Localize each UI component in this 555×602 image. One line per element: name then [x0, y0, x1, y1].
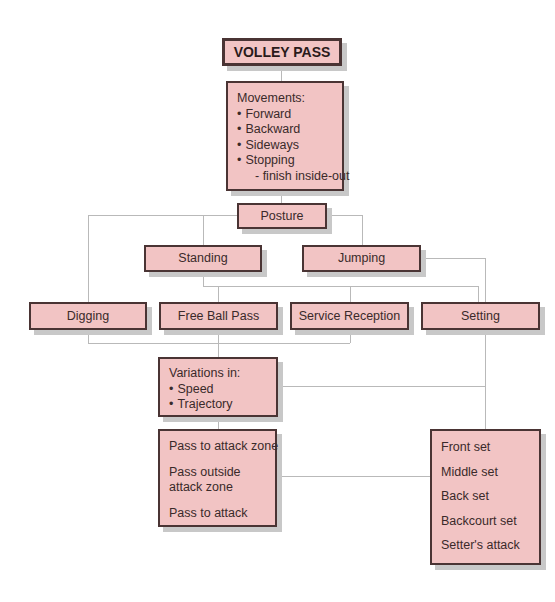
posture-box: Posture [237, 203, 327, 229]
connector-variations-setting [278, 386, 485, 387]
connector-to-standing [203, 215, 204, 245]
connector-variations-targets [218, 416, 219, 430]
pass-target-item: Pass to attack [169, 507, 266, 520]
connector-to-jumping [362, 215, 363, 245]
set-types-box: Front set Middle set Back set Backcourt … [430, 429, 541, 565]
free-ball-pass-box: Free Ball Pass [159, 302, 278, 330]
set-type-item: Backcourt set [441, 515, 530, 528]
connector-setting-down [485, 330, 486, 430]
connector-standing-branch [203, 286, 478, 287]
movement-item: Forward [237, 108, 333, 121]
movement-sub-item: - finish inside-out [237, 170, 333, 183]
connector-standing-down [203, 272, 204, 286]
connector-movements-posture [281, 190, 282, 204]
set-type-item: Front set [441, 441, 530, 454]
connector-jumping-right [420, 258, 485, 259]
set-type-item: Middle set [441, 466, 530, 479]
service-reception-box: Service Reception [290, 302, 409, 330]
pass-targets-box: Pass to attack zone Pass outside attack … [158, 429, 277, 527]
variations-heading: Variations in: [169, 367, 267, 380]
digging-box: Digging [29, 302, 147, 330]
standing-label: Standing [178, 252, 227, 265]
title-box: VOLLEY PASS [222, 38, 342, 66]
movements-heading: Movements: [237, 92, 333, 105]
movements-box: Movements: Forward Backward Sideways Sto… [226, 81, 344, 191]
posture-label: Posture [260, 210, 303, 223]
connector-passes-bottom [88, 343, 350, 344]
connector-service-bottom [350, 330, 351, 343]
variation-item: Trajectory [169, 398, 267, 411]
connector-to-variations [218, 330, 219, 358]
set-type-item: Setter's attack [441, 539, 530, 552]
variations-box: Variations in: Speed Trajectory [158, 357, 278, 417]
variation-item: Speed [169, 383, 267, 396]
pass-target-item: Pass to attack zone [169, 440, 266, 453]
jumping-label: Jumping [338, 252, 385, 265]
jumping-box: Jumping [302, 245, 421, 272]
digging-label: Digging [67, 310, 109, 323]
setting-box: Setting [421, 302, 540, 330]
movement-item: Backward [237, 123, 333, 136]
connector-jumping-to-setting [485, 258, 486, 303]
free-ball-pass-label: Free Ball Pass [178, 310, 259, 323]
connector-to-service-reception [350, 286, 351, 303]
service-reception-label: Service Reception [299, 310, 400, 323]
connector-to-setting-from-standing [478, 286, 479, 303]
connector-to-free-ball [218, 286, 219, 303]
set-type-item: Back set [441, 490, 530, 503]
connector-title-movements [281, 65, 282, 82]
title-text: VOLLEY PASS [234, 45, 331, 59]
connector-digging-bottom [88, 330, 89, 343]
setting-label: Setting [461, 310, 500, 323]
connector-to-digging [88, 215, 89, 303]
standing-box: Standing [144, 245, 262, 272]
movement-item: Stopping [237, 154, 333, 167]
connector-targets-sets [277, 476, 430, 477]
pass-target-item: Pass outside attack zone [169, 465, 274, 495]
movement-item: Sideways [237, 139, 333, 152]
